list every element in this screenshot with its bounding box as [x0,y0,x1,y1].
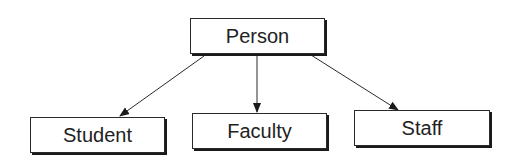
node-faculty-label: Faculty [227,120,291,143]
node-student-label: Student [63,124,132,147]
edge-person-staff [311,55,398,110]
node-staff: Staff [354,110,490,146]
node-person: Person [190,18,325,54]
node-staff-label: Staff [402,117,443,140]
node-person-label: Person [226,25,289,48]
edge-person-student [120,56,204,116]
node-student: Student [30,117,165,153]
node-faculty: Faculty [192,113,327,149]
